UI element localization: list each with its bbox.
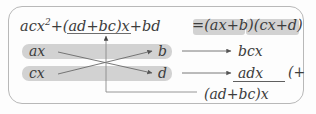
cross-term-bottom-left: cx (29, 66, 45, 80)
lhs-leading-term: acx (20, 18, 45, 34)
cross-term-bottom-right: d (158, 66, 167, 80)
cross-arrow-cx-to-b (58, 51, 152, 74)
sum-feedback-connector (106, 36, 197, 92)
equation-right-side: =(ax+b)(cx+d) (192, 18, 303, 33)
sum-result: (ad+bc)x (204, 87, 269, 101)
middle-term-underline (67, 33, 131, 34)
cross-term-top-left: ax (29, 44, 45, 58)
product-bcx: bcx (238, 44, 263, 58)
factor-two: (cx+d) (254, 17, 303, 33)
sum-bar (233, 81, 285, 82)
plus-marker: (+ (288, 65, 305, 79)
factor-one: (ax+b) (204, 17, 254, 33)
equals-sign: = (192, 17, 204, 33)
product-adx: adx (238, 66, 263, 80)
cross-term-top-right: b (158, 44, 167, 58)
factoring-diagram: acx2+(ad+bc)x+bd =(ax+b)(cx+d) ax cx b d… (0, 0, 316, 114)
lhs-remaining-terms: +(ad+bc)x+bd (51, 18, 161, 34)
equation-left-side: acx2+(ad+bc)x+bd (20, 18, 161, 33)
